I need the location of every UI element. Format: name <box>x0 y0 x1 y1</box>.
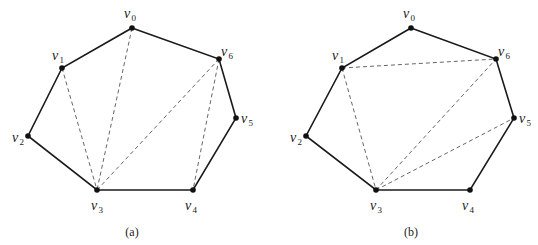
diagonal-v1-v3 <box>342 68 376 190</box>
figure-b: v0v1v2v3v4v5v6(b) <box>290 6 532 239</box>
vertex-v5 <box>233 115 239 121</box>
vertex-label-v2: v <box>12 130 19 145</box>
vertex-subscript-v2: 2 <box>20 137 25 147</box>
vertex-label-v6: v <box>221 44 228 59</box>
vertex-v0 <box>408 25 414 31</box>
vertex-label-v0: v <box>403 6 410 21</box>
vertex-subscript-v3: 3 <box>99 205 104 215</box>
diagonal-v3-v6 <box>376 59 496 190</box>
vertex-subscript-v0: 0 <box>411 13 416 23</box>
figure-a: v0v1v2v3v4v5v6(a) <box>12 6 254 239</box>
vertex-v3 <box>94 187 100 193</box>
diagonal-v6-v3 <box>97 59 219 190</box>
vertex-label-v1: v <box>332 48 339 63</box>
vertex-subscript-v5: 5 <box>527 118 532 128</box>
diagonal-v1-v3 <box>62 68 97 190</box>
polygon-outline <box>28 28 236 190</box>
diagonal-v0-v3 <box>97 28 132 190</box>
vertex-v4 <box>190 187 196 193</box>
vertex-v2 <box>25 133 31 139</box>
polygon-triangulation-diagram: v0v1v2v3v4v5v6(a)v0v1v2v3v4v5v6(b) <box>0 0 538 245</box>
vertex-label-v3: v <box>91 198 98 213</box>
figure-caption: (b) <box>404 225 418 239</box>
vertex-label-v5: v <box>241 111 248 126</box>
vertex-v1 <box>59 65 65 71</box>
vertex-subscript-v4: 4 <box>470 205 475 215</box>
vertex-label-v4: v <box>462 198 469 213</box>
vertex-subscript-v3: 3 <box>378 205 383 215</box>
vertex-label-v1: v <box>52 48 59 63</box>
vertex-v3 <box>373 187 379 193</box>
vertex-label-v2: v <box>290 130 297 145</box>
vertex-label-v5: v <box>519 111 526 126</box>
vertex-subscript-v6: 6 <box>506 51 511 61</box>
diagonal-v3-v5 <box>376 118 514 190</box>
diagonal-v6-v4 <box>193 59 219 190</box>
vertex-subscript-v0: 0 <box>132 13 137 23</box>
vertex-v5 <box>511 115 517 121</box>
vertex-label-v0: v <box>124 6 131 21</box>
vertex-subscript-v4: 4 <box>193 205 198 215</box>
vertex-v2 <box>303 133 309 139</box>
vertex-subscript-v2: 2 <box>298 137 303 147</box>
diagonal-v1-v6 <box>342 59 496 68</box>
vertex-v4 <box>467 187 473 193</box>
figure-caption: (a) <box>125 225 138 239</box>
vertex-subscript-v1: 1 <box>60 55 65 65</box>
vertex-label-v3: v <box>370 198 377 213</box>
vertex-subscript-v5: 5 <box>249 118 254 128</box>
vertex-v0 <box>129 25 135 31</box>
vertex-label-v4: v <box>185 198 192 213</box>
vertex-label-v6: v <box>498 44 505 59</box>
vertex-subscript-v6: 6 <box>229 51 234 61</box>
vertex-subscript-v1: 1 <box>340 55 345 65</box>
vertex-v1 <box>339 65 345 71</box>
